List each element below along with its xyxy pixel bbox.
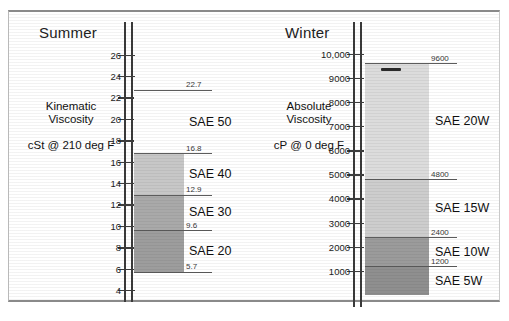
axis-tick-label: 18 xyxy=(9,135,121,146)
chart-panel-summer: Summer Kinematic Viscosity cSt @ 210 deg… xyxy=(9,12,255,304)
boundary-value-label: 9600 xyxy=(431,54,449,63)
axis-tick-label: 7000 xyxy=(255,121,350,132)
viscosity-band xyxy=(365,179,429,237)
band-label: SAE 15W xyxy=(435,201,489,215)
boundary-leader-line xyxy=(134,230,212,231)
boundary-leader-line xyxy=(365,237,457,238)
bar-top-tick-mark xyxy=(381,68,401,71)
viscosity-band xyxy=(365,237,429,266)
boundary-leader-line xyxy=(134,90,212,91)
axis-tick-label: 5000 xyxy=(255,169,350,180)
boundary-leader-line xyxy=(134,195,212,196)
axis-tick-label: 12 xyxy=(9,199,121,210)
axis-tick-label: 3000 xyxy=(255,217,350,228)
axis-tick-label: 22 xyxy=(9,92,121,103)
axis-tick-label: 8000 xyxy=(255,96,350,107)
axis-tick-label: 2000 xyxy=(255,241,350,252)
band-label: SAE 30 xyxy=(189,205,231,219)
band-label: SAE 50 xyxy=(189,115,231,129)
chart-panel-winter: Winter Absolute Viscosity cP @ 0 deg F 1… xyxy=(255,12,501,304)
axis-tick-label: 10,000 xyxy=(255,48,350,59)
boundary-value-label: 12.9 xyxy=(186,185,202,194)
band-label: SAE 5W xyxy=(435,274,482,288)
axis-tick-label: 14 xyxy=(9,178,121,189)
boundary-value-label: 1200 xyxy=(431,257,449,266)
boundary-leader-line xyxy=(365,266,457,267)
band-label: SAE 20 xyxy=(189,244,231,258)
axis-tick-label: 6 xyxy=(9,263,121,274)
axis-rail-inner xyxy=(353,22,355,307)
boundary-leader-line xyxy=(134,153,212,154)
band-label: SAE 40 xyxy=(189,167,231,181)
panel-title-winter: Winter xyxy=(285,24,330,41)
boundary-value-label: 2400 xyxy=(431,228,449,237)
boundary-value-label: 22.7 xyxy=(186,80,202,89)
boundary-leader-line xyxy=(365,179,457,180)
axis-tick-label: 8 xyxy=(9,242,121,253)
axis-tick-label: 16 xyxy=(9,156,121,167)
boundary-value-label: 5.7 xyxy=(186,262,197,271)
axis-tick-label: 26 xyxy=(9,49,121,60)
viscosity-band xyxy=(365,266,429,295)
axis-tick-label: 4000 xyxy=(255,193,350,204)
viscosity-band xyxy=(365,63,429,179)
boundary-leader-line xyxy=(365,63,457,64)
axis-tick-label: 9000 xyxy=(255,72,350,83)
boundary-leader-line xyxy=(134,272,212,273)
boundary-value-label: 4800 xyxy=(431,170,449,179)
viscosity-band xyxy=(134,153,184,195)
axis-tick-label: 20 xyxy=(9,113,121,124)
viscosity-band xyxy=(134,195,184,230)
axis-tick-label: 6000 xyxy=(255,145,350,156)
panel-title-summer: Summer xyxy=(39,24,97,41)
viscosity-band xyxy=(134,90,184,153)
boundary-value-label: 9.6 xyxy=(186,221,197,230)
axis-tick-label: 24 xyxy=(9,71,121,82)
axis-tick-label: 4 xyxy=(9,285,121,296)
axis-tick-label: 10 xyxy=(9,220,121,231)
viscosity-band xyxy=(134,230,184,272)
figure-frame: Summer Kinematic Viscosity cSt @ 210 deg… xyxy=(8,10,500,302)
boundary-value-label: 16.8 xyxy=(186,144,202,153)
band-label: SAE 20W xyxy=(435,114,489,128)
axis-rail-outer xyxy=(360,22,362,307)
axis-tick-label: 1000 xyxy=(255,265,350,276)
